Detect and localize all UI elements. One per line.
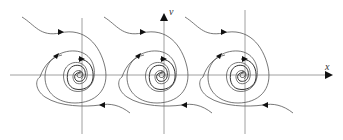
spiral-focus-2 — [104, 17, 212, 113]
v-axis-arrow-icon — [160, 13, 168, 21]
spiral-focus-3 — [185, 17, 293, 113]
x-axis-arrow-icon — [325, 71, 333, 79]
spiral-focus-1 — [22, 17, 130, 113]
phase-portrait-diagram: x v — [0, 0, 343, 140]
x-axis-label: x — [324, 61, 330, 72]
v-axis-label: v — [169, 6, 174, 17]
